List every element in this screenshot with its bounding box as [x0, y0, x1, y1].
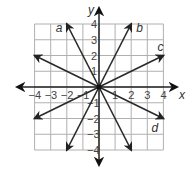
line-label-d: d [151, 121, 158, 135]
x-tick-label: −2 [61, 89, 74, 101]
x-tick-label: −3 [45, 89, 58, 101]
y-tick-label: −3 [87, 128, 100, 140]
x-tick-label: −4 [29, 89, 42, 101]
y-tick-label: 4 [91, 18, 97, 30]
y-tick-label: 1 [91, 65, 97, 77]
x-tick-label: 2 [128, 89, 134, 101]
x-tick-label: 3 [144, 89, 150, 101]
coordinate-plane: xy −4−3−2−112344321−1−2−3−4 abcd [0, 0, 190, 172]
y-tick-label: 2 [91, 50, 97, 62]
line-label-a: a [56, 21, 63, 35]
origin-point [97, 85, 102, 90]
y-axis-label: y [87, 3, 95, 17]
x-axis-label: x [178, 88, 186, 102]
axes: xy [17, 3, 186, 165]
y-tick-label: 3 [91, 34, 97, 46]
line-label-c: c [157, 40, 163, 54]
line-label-b: b [136, 21, 143, 35]
y-tick-label: −4 [87, 144, 100, 156]
x-tick-label: 4 [160, 89, 166, 101]
y-tick-label: −2 [87, 113, 100, 125]
